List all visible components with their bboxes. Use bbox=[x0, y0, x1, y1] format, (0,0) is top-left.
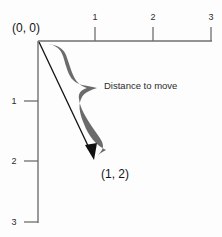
x-tick-label-2: 2 bbox=[150, 12, 155, 22]
x-tick-label-3: 3 bbox=[208, 12, 213, 22]
movement-vector-arrow bbox=[39, 42, 97, 160]
endpoint-label: (1, 2) bbox=[101, 167, 129, 181]
x-tick-label-1: 1 bbox=[92, 12, 97, 22]
y-tick-label-3: 3 bbox=[11, 217, 16, 227]
y-tick-label-2: 2 bbox=[11, 156, 16, 166]
coordinate-diagram: 1 2 3 1 2 3 (0, 0) Distance to move (1, … bbox=[0, 0, 222, 237]
vector-arrowhead bbox=[85, 143, 97, 160]
x-axis-ticks: 1 2 3 bbox=[92, 12, 213, 41]
y-tick-label-1: 1 bbox=[11, 96, 16, 106]
origin-label: (0, 0) bbox=[12, 21, 40, 35]
diagram-canvas: 1 2 3 1 2 3 (0, 0) Distance to move (1, … bbox=[0, 0, 222, 237]
distance-annotation-label: Distance to move bbox=[104, 80, 177, 91]
distance-brace-icon bbox=[48, 44, 106, 155]
axes-group bbox=[38, 41, 212, 223]
y-axis-ticks: 1 2 3 bbox=[11, 96, 38, 227]
